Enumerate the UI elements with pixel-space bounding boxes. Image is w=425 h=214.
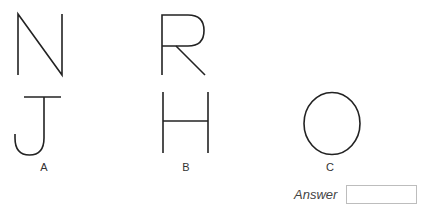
letter-n-figure bbox=[18, 14, 62, 75]
letter-r-figure bbox=[162, 15, 205, 75]
option-b-label: B bbox=[176, 162, 196, 173]
option-c-letter-o-figure bbox=[304, 93, 360, 155]
option-c-label: C bbox=[320, 162, 340, 173]
option-a-letter-j-figure bbox=[15, 97, 61, 155]
option-a-label: A bbox=[34, 162, 54, 173]
answer-label: Answer bbox=[294, 187, 337, 202]
option-b-letter-h-figure bbox=[163, 92, 208, 153]
puzzle-figures bbox=[0, 0, 425, 214]
answer-input[interactable] bbox=[346, 185, 417, 204]
